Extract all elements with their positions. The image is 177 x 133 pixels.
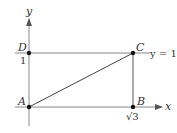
label-a: A	[17, 95, 26, 108]
x-tick-label-sqrt3: √3	[126, 111, 139, 122]
point-c	[131, 51, 135, 55]
point-b	[131, 105, 135, 109]
point-d	[27, 51, 31, 55]
label-d: D	[17, 41, 27, 54]
y-axis-label: y	[25, 5, 33, 18]
label-c: C	[136, 41, 145, 54]
coordinate-diagram: y x D 1 C y = 1 A B √3	[0, 0, 177, 133]
segment-ac	[29, 53, 133, 107]
point-a	[27, 105, 31, 109]
line-label-y-equals-1: y = 1	[149, 48, 177, 59]
x-axis-label: x	[165, 100, 172, 113]
label-b: B	[136, 95, 145, 108]
y-tick-label-1: 1	[20, 55, 26, 66]
